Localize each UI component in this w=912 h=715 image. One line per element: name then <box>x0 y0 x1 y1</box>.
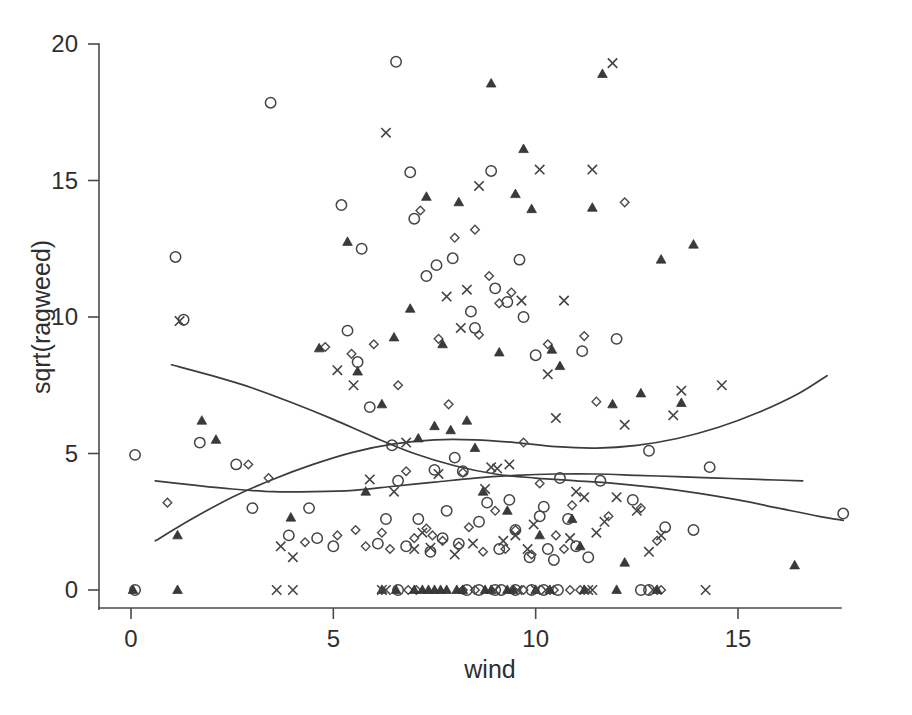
point-cross <box>493 464 502 473</box>
point-triangle <box>511 189 521 198</box>
point-triangle <box>555 361 565 370</box>
point-circle <box>628 495 638 505</box>
point-circle <box>518 312 528 322</box>
x-tick-label: 10 <box>522 625 549 652</box>
point-triangle <box>173 585 183 594</box>
point-triangle <box>656 255 666 264</box>
point-diamond <box>471 225 480 234</box>
y-tick-label: 0 <box>65 576 78 603</box>
point-circle <box>365 402 375 412</box>
point-circle <box>611 334 621 344</box>
point-triangle <box>430 421 440 430</box>
point-cross <box>571 487 580 496</box>
point-circle <box>583 552 593 562</box>
point-cross <box>608 58 617 67</box>
point-circle <box>466 306 476 316</box>
point-cross <box>535 165 544 174</box>
point-diamond <box>485 272 494 281</box>
point-circle <box>704 462 714 472</box>
point-triangle <box>422 192 432 201</box>
point-triangle <box>353 367 363 376</box>
point-cross <box>272 585 281 594</box>
series-circle <box>130 57 849 596</box>
point-cross <box>529 520 538 529</box>
point-cross <box>288 585 297 594</box>
point-diamond <box>386 545 395 554</box>
point-cross <box>349 381 358 390</box>
x-axis-title: wind <box>463 655 515 683</box>
point-circle <box>328 541 338 551</box>
point-circle <box>356 244 366 254</box>
point-diamond <box>604 512 613 521</box>
point-triangle <box>197 416 207 425</box>
point-diamond <box>620 198 629 207</box>
point-circle <box>595 476 605 486</box>
point-circle <box>413 514 423 524</box>
y-axis-title: sqrt(ragweed) <box>27 240 55 394</box>
point-cross <box>333 366 342 375</box>
scatter-plot-figure: 05101520051015 windsqrt(ragweed) <box>0 0 912 715</box>
point-triangle <box>486 79 496 88</box>
point-triangle <box>438 339 448 348</box>
point-circle <box>393 476 403 486</box>
point-cross <box>442 292 451 301</box>
point-diamond <box>428 531 437 540</box>
point-diamond <box>361 542 370 551</box>
point-circle <box>530 350 540 360</box>
point-circle <box>247 503 257 513</box>
point-circle <box>391 57 401 67</box>
point-cross <box>677 386 686 395</box>
data-points <box>128 57 848 596</box>
point-diamond <box>535 479 544 488</box>
point-diamond <box>552 531 561 540</box>
point-circle <box>543 544 553 554</box>
point-diamond <box>580 332 589 341</box>
point-diamond <box>402 467 411 476</box>
point-circle <box>265 97 275 107</box>
point-diamond <box>479 547 488 556</box>
point-circle <box>504 495 514 505</box>
point-triangle <box>494 347 504 356</box>
axes: 05101520051015 <box>51 30 841 652</box>
point-circle <box>644 446 654 456</box>
point-diamond <box>444 400 453 409</box>
point-cross <box>551 413 560 422</box>
point-circle <box>490 283 500 293</box>
point-triangle <box>503 506 513 515</box>
point-triangle <box>389 332 399 341</box>
point-cross <box>450 550 459 559</box>
point-triangle <box>567 514 577 523</box>
point-triangle <box>575 541 585 550</box>
point-cross <box>505 460 514 469</box>
point-circle <box>482 497 492 507</box>
point-cross <box>468 539 477 548</box>
point-circle <box>336 200 346 210</box>
point-cross <box>592 528 601 537</box>
point-circle <box>352 357 362 367</box>
point-cross <box>559 296 568 305</box>
point-circle <box>231 459 241 469</box>
point-cross <box>434 469 443 478</box>
point-circle <box>688 525 698 535</box>
point-cross <box>565 533 574 542</box>
y-tick-label: 20 <box>51 30 78 57</box>
axis-labels: windsqrt(ragweed) <box>27 240 516 683</box>
point-triangle <box>790 560 800 569</box>
point-diamond <box>410 534 419 543</box>
point-triangle <box>361 487 371 496</box>
point-diamond <box>378 528 387 537</box>
point-triangle <box>377 399 387 408</box>
point-diamond <box>501 545 510 554</box>
point-circle <box>539 502 549 512</box>
point-diamond <box>394 381 403 390</box>
point-diamond <box>560 545 569 554</box>
point-cross <box>620 420 629 429</box>
point-circle <box>195 437 205 447</box>
point-circle <box>373 538 383 548</box>
point-cross <box>288 553 297 562</box>
point-triangle <box>446 425 456 434</box>
point-triangle <box>535 530 545 539</box>
point-circle <box>502 297 512 307</box>
point-circle <box>130 450 140 460</box>
y-tick-label: 15 <box>51 167 78 194</box>
